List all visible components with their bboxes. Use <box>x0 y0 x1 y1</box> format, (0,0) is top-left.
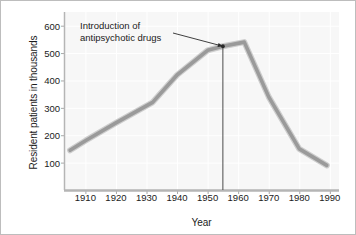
annotation-label: Introduction of antipsychotic drugs <box>80 20 161 43</box>
x-axis-title: Year <box>64 217 339 228</box>
chart-figure: Resident patients in thousands 100200300… <box>0 0 356 235</box>
annotation-target-point <box>221 44 225 48</box>
annotation-line-1: Introduction of <box>80 20 161 32</box>
x-tick-label: 1990 <box>310 192 350 203</box>
x-axis-tick-labels: 191019201930194019501960197019801990 <box>1 192 356 206</box>
annotation-line-2: antipsychotic drugs <box>80 32 161 44</box>
